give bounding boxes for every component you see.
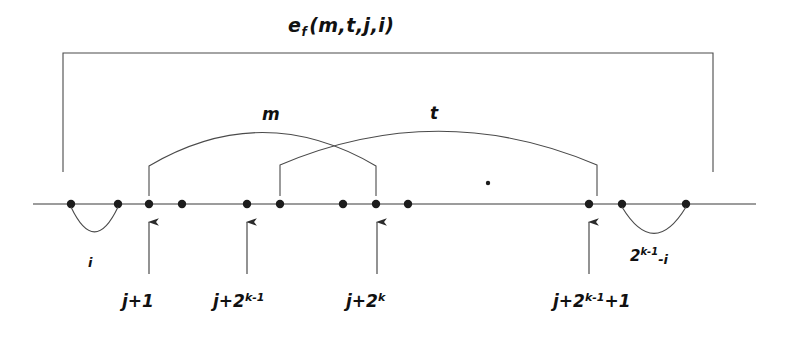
- number-line-dot: [114, 200, 122, 208]
- diagram-canvas: [0, 0, 791, 337]
- tick-label-j-plus-1: j+1: [122, 292, 154, 310]
- tick-label-exponent: k: [378, 291, 385, 304]
- under-arc-label-base: 2: [630, 247, 640, 265]
- diagram-figure: ef(m,t,j,i) m t i 2k-1-i j+1 j+2k-1 j+2k…: [0, 0, 791, 337]
- figure-title: ef(m,t,j,i): [288, 16, 395, 38]
- tick-label-j-plus-2-pow-k-minus-1: j+2k-1: [213, 292, 264, 310]
- number-line-dot: [372, 200, 380, 208]
- number-line-dot: [243, 200, 251, 208]
- title-base: e: [288, 14, 301, 36]
- number-line-dot: [178, 200, 186, 208]
- number-line-dot: [276, 200, 284, 208]
- arc-label-m: m: [262, 106, 280, 123]
- stray-dot: [486, 181, 490, 185]
- tick-label-exponent: k-1: [585, 291, 605, 304]
- tick-label-base: j+2: [553, 291, 585, 311]
- under-arc-label-exponent: k-1: [640, 246, 658, 257]
- bracket-path: [63, 53, 713, 172]
- span-arcs: [149, 131, 597, 196]
- number-line-dot: [339, 200, 347, 208]
- tick-label-base: j+2: [213, 291, 245, 311]
- tick-label-j-plus-2-pow-k: j+2k: [346, 292, 385, 310]
- number-line-dot: [145, 200, 153, 208]
- tick-label-base: j+1: [122, 291, 154, 311]
- tick-label-j-plus-2-pow-k-minus-1-plus-1: j+2k-1+1: [553, 292, 631, 310]
- stray-dot: [486, 181, 490, 185]
- number-line-dot: [618, 200, 626, 208]
- number-line-dot: [682, 200, 690, 208]
- title-args: (m,t,j,i): [309, 14, 394, 36]
- under-arc-label-2k1-minus-i: 2k-1-i: [630, 247, 668, 266]
- under-arcs: [71, 207, 686, 233]
- arc-t: [280, 131, 597, 196]
- tick-label-tail: +1: [604, 291, 630, 311]
- under-arc-i: [71, 207, 118, 232]
- tick-label-exponent: k-1: [245, 291, 265, 304]
- number-line-dot: [404, 200, 412, 208]
- tick-arrows: [149, 222, 589, 274]
- title-subscript: f: [301, 25, 309, 39]
- arc-label-t: t: [430, 105, 438, 122]
- number-line-dot: [67, 200, 75, 208]
- number-line-dot: [585, 200, 593, 208]
- tick-label-base: j+2: [346, 291, 378, 311]
- under-arc-label-i: i: [88, 256, 92, 269]
- under-arc-2k1-minus-i: [622, 207, 686, 233]
- arc-m: [149, 133, 376, 196]
- outer-span-bracket: [63, 53, 713, 172]
- under-arc-label-tail: -i: [658, 252, 668, 267]
